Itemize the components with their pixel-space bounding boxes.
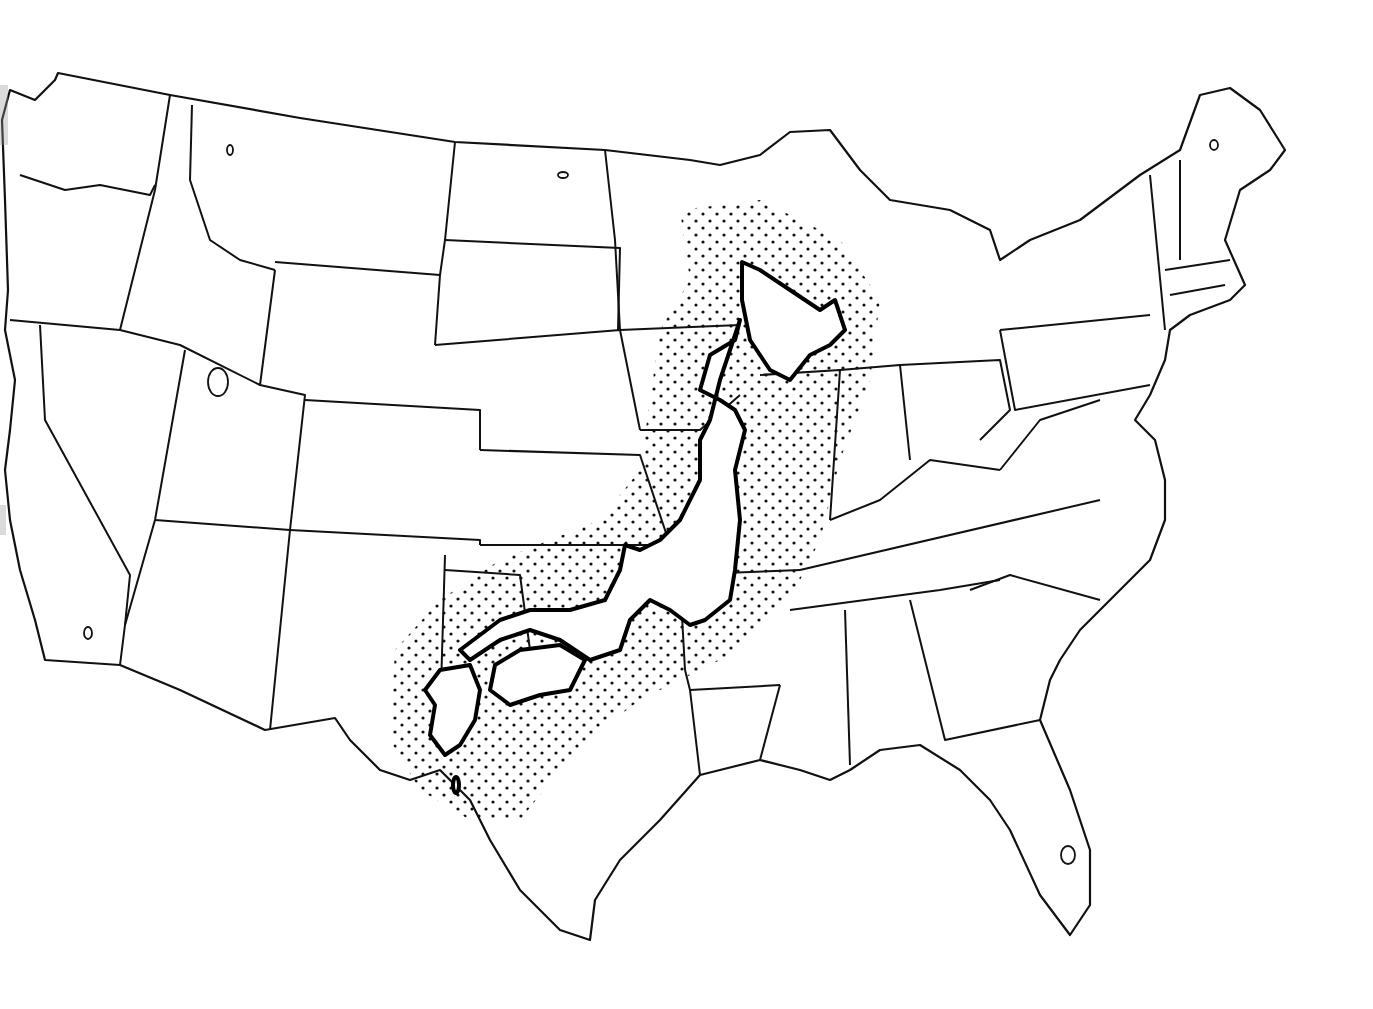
island <box>453 777 459 793</box>
us-japan-overlay-map <box>0 0 1373 1009</box>
